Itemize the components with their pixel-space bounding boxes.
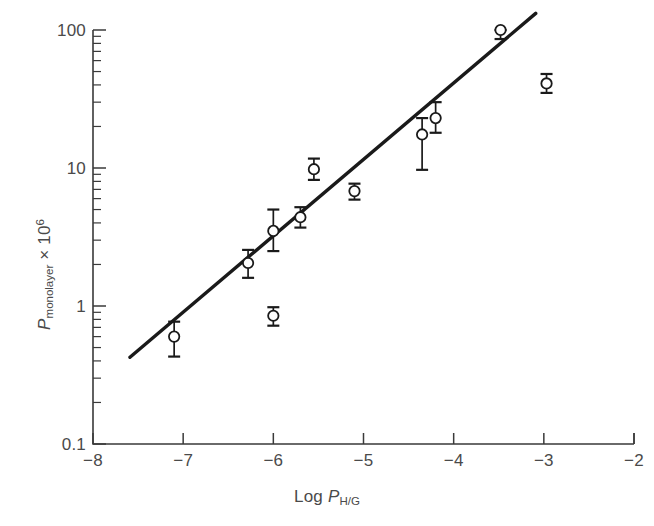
data-point-p5 — [295, 212, 305, 222]
x-axis-title-prefix: Log — [294, 487, 328, 506]
data-point-p11 — [541, 78, 551, 88]
x-axis-subscript: H/G — [339, 495, 359, 507]
data-point-p9 — [430, 113, 440, 123]
scatter-plot-canvas: −8−7−6−5−4−3−20.1110100 — [0, 0, 654, 526]
y-tick-label-1: 1 — [76, 297, 86, 316]
tick-marks-group — [93, 30, 634, 444]
x-tick-label-4: −4 — [444, 451, 464, 470]
data-point-p1 — [169, 331, 179, 341]
data-point-p7 — [349, 186, 359, 196]
axis-spines — [93, 30, 634, 444]
fit-line — [130, 13, 536, 357]
y-tick-label-0: 0.1 — [62, 435, 86, 454]
data-point-p10 — [495, 25, 505, 35]
error-bars-group — [168, 30, 552, 357]
x-tick-label-0: −8 — [83, 451, 103, 470]
x-tick-label-6: −2 — [624, 451, 644, 470]
x-axis-symbol: P — [328, 487, 340, 506]
x-tick-label-3: −5 — [354, 451, 374, 470]
y-tick-label-2: 10 — [67, 159, 86, 178]
x-tick-label-2: −6 — [263, 451, 283, 470]
x-tick-label-1: −7 — [173, 451, 193, 470]
regression-fit-line — [130, 13, 536, 357]
y-axis-subscript: monolayer — [43, 265, 55, 319]
x-axis-title: Log PH/G — [0, 487, 654, 507]
data-point-p3 — [268, 226, 278, 236]
y-axis-multiplier: × 10 — [35, 225, 54, 264]
y-axis-title: Pmonolayer × 106 — [34, 219, 55, 330]
data-point-p4 — [268, 311, 278, 321]
y-tick-label-3: 100 — [57, 21, 86, 40]
figure-container: −8−7−6−5−4−3−20.1110100 Pmonolayer × 106… — [0, 0, 654, 526]
data-point-p8 — [417, 129, 427, 139]
y-axis-symbol: P — [35, 318, 54, 330]
tick-labels-group: −8−7−6−5−4−3−20.1110100 — [57, 21, 644, 470]
error-bar-p8 — [416, 118, 428, 170]
axes-group — [93, 30, 634, 444]
y-axis-exponent: 6 — [34, 219, 46, 225]
data-point-p2 — [243, 258, 253, 268]
data-point-p6 — [309, 164, 319, 174]
x-tick-label-5: −3 — [534, 451, 554, 470]
